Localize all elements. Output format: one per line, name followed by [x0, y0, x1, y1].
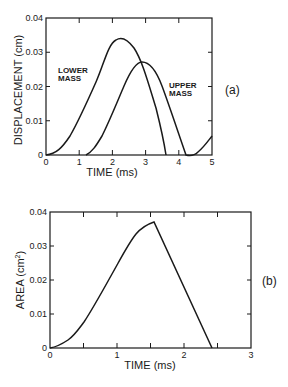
upper-mass-curve: [86, 62, 212, 156]
x-tick-label: 0: [47, 350, 52, 360]
x-tick-label: 3: [143, 157, 148, 167]
y-tick-label: 0.02: [25, 82, 43, 92]
y-tick-label: 0.01: [25, 116, 43, 126]
y-tick-label: 0: [38, 150, 43, 160]
x-tick-label: 2: [181, 350, 186, 360]
y-tick-label: 0.03: [29, 241, 47, 251]
x-tick-label: 1: [77, 157, 82, 167]
x-tick-label: 0: [43, 157, 48, 167]
y-axis-label-a: DISPLACEMENT (cm): [12, 35, 24, 145]
x-tick-label: 5: [209, 157, 214, 167]
y-axis-label-b: AREA (cm2): [14, 251, 26, 309]
y-tick-label: 0: [42, 343, 47, 353]
figure: 0 0.01 0.02 0.03 0.04 0 1 2 3 4 5 TIME (…: [0, 0, 288, 387]
area-curve: [50, 222, 212, 348]
y-tick-label: 0.04: [29, 207, 47, 217]
panel-a: 0 0.01 0.02 0.03 0.04 0 1 2 3 4 5 TIME (…: [12, 13, 240, 178]
annotation-lower-mass: MASS: [58, 74, 82, 83]
panel-b: 0 0.01 0.02 0.03 0.04 0 1 2 3 TIME (ms) …: [14, 207, 277, 371]
x-tick-label: 3: [248, 350, 253, 360]
y-tick-label: 0.03: [25, 47, 43, 57]
x-axis-label-a: TIME (ms): [86, 166, 137, 178]
y-tick-label: 0.02: [29, 275, 47, 285]
x-axis-label-b: TIME (ms): [124, 359, 175, 371]
y-tick-label: 0.04: [25, 13, 43, 23]
panel-label-a: (a): [225, 83, 240, 97]
y-tick-label: 0.01: [29, 309, 47, 319]
panel-label-b: (b): [262, 274, 277, 288]
lower-mass-curve: [46, 38, 166, 155]
x-tick-label: 1: [114, 350, 119, 360]
annotation-upper-mass: MASS: [169, 89, 193, 98]
x-tick-label: 4: [176, 157, 181, 167]
